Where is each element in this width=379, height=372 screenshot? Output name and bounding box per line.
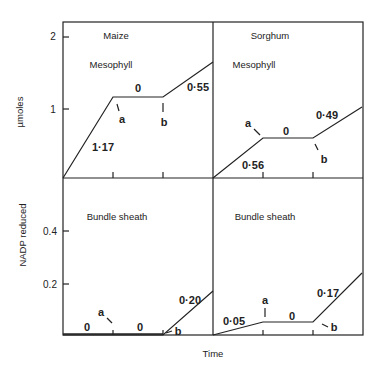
svg-text:a: a xyxy=(262,294,269,306)
svg-text:1·17: 1·17 xyxy=(92,141,114,153)
y-tick-0.4: 0.4 xyxy=(43,226,57,237)
arrow-b xyxy=(322,324,328,327)
y-tick-2: 2 xyxy=(50,31,56,42)
x-axis-label: Time xyxy=(203,348,224,359)
panel-subtitle: Mesophyll xyxy=(233,59,276,70)
y-axis-label-bottom: NADP reduced xyxy=(17,203,28,266)
svg-text:0: 0 xyxy=(137,321,143,333)
arrow-a xyxy=(107,318,112,323)
arrow-a xyxy=(117,104,119,111)
svg-text:a: a xyxy=(119,113,126,125)
svg-text:b: b xyxy=(175,325,182,337)
panel-maize-bundle-sheath: Bundle sheath 0 0 0·20 a b xyxy=(63,211,213,337)
panel-title-maize: Maize xyxy=(103,30,128,41)
svg-text:a: a xyxy=(98,306,105,318)
svg-text:0: 0 xyxy=(84,321,90,333)
svg-text:a: a xyxy=(245,117,252,129)
panel-subtitle: Mesophyll xyxy=(90,59,133,70)
y-tick-1: 1 xyxy=(50,104,56,115)
data-line xyxy=(63,62,213,178)
svg-text:0: 0 xyxy=(289,310,295,322)
panel-sorghum-mesophyll: Sorghum Mesophyll 0·56 0 0·49 a b xyxy=(213,30,362,178)
svg-text:0·17: 0·17 xyxy=(317,287,339,299)
y-axis-ticks: 2 1 0.4 0.2 xyxy=(43,31,69,290)
arrow-b xyxy=(315,144,318,150)
y-axis-label-top: µmoles xyxy=(14,96,25,127)
panel-maize-mesophyll: Maize Mesophyll 1·17 0 0·55 a b xyxy=(63,30,213,178)
svg-text:0·05: 0·05 xyxy=(223,315,245,327)
data-line xyxy=(213,107,362,178)
panel-title-sorghum: Sorghum xyxy=(251,30,290,41)
panel-subtitle: Bundle sheath xyxy=(235,211,296,222)
y-tick-0.2: 0.2 xyxy=(43,279,57,290)
svg-text:0: 0 xyxy=(135,82,141,94)
chart-figure: 2 1 0.4 0.2 µmoles NADP reduced Time Mai… xyxy=(0,0,379,372)
arrow-a xyxy=(254,129,260,135)
svg-text:b: b xyxy=(161,116,168,128)
svg-text:0·20: 0·20 xyxy=(179,294,201,306)
svg-text:0·49: 0·49 xyxy=(316,109,338,121)
panel-subtitle: Bundle sheath xyxy=(87,211,148,222)
svg-text:b: b xyxy=(331,321,338,333)
svg-text:0: 0 xyxy=(283,125,289,137)
svg-text:b: b xyxy=(321,153,328,165)
panel-sorghum-bundle-sheath: Bundle sheath 0·05 0 0·17 a b xyxy=(213,211,362,335)
svg-text:0·56: 0·56 xyxy=(242,159,264,171)
svg-text:0·55: 0·55 xyxy=(187,81,209,93)
